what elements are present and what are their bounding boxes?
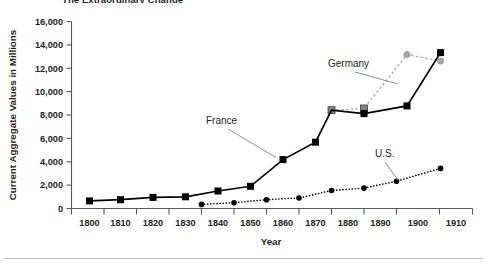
- x-tick-label: 1810: [110, 218, 130, 228]
- y-tick-label: 14,000: [35, 40, 63, 50]
- y-tick-label: 16,000: [35, 17, 63, 27]
- annotation-france: France: [206, 115, 276, 158]
- france-leader-line: [228, 129, 276, 158]
- us-leader-line: [385, 162, 398, 180]
- x-tick-label: 1860: [273, 218, 293, 228]
- x-tick-label: 1850: [240, 218, 260, 228]
- y-axis-title: Current Aggregate Values in Millions: [7, 29, 18, 200]
- y-tick-label: 10,000: [35, 87, 63, 97]
- x-tick-label: 1840: [208, 218, 228, 228]
- x-tick-label: 1800: [79, 218, 99, 228]
- y-tick-label: 8,000: [40, 110, 63, 120]
- y-tick-label: 12,000: [35, 64, 63, 74]
- germany-label: Germany: [328, 58, 369, 69]
- x-tick-label: 1830: [175, 218, 195, 228]
- series-us: [199, 166, 444, 208]
- us-line: [202, 168, 441, 204]
- chart-title: The Extraordinary Change: [62, 0, 183, 3]
- annotation-us: U.S.: [375, 148, 398, 180]
- france-markers: [86, 49, 444, 204]
- chart-figure: The Extraordinary Change 0 2,000 4,000 6…: [0, 0, 487, 263]
- x-tick-label: 1880: [338, 218, 358, 228]
- x-tick-label: 1910: [446, 218, 466, 228]
- series-france: [86, 49, 444, 204]
- x-tick-label: 1900: [408, 218, 428, 228]
- france-line: [90, 53, 441, 201]
- us-label: U.S.: [375, 148, 394, 159]
- y-tick-label: 6,000: [40, 134, 63, 144]
- france-label: France: [206, 115, 238, 126]
- y-axis-ticks: [67, 22, 72, 209]
- x-axis-tick-labels: 1800 1810 1820 1830 1840 1850 1860 1870 …: [79, 218, 466, 228]
- y-axis-tick-labels: 0 2,000 4,000 6,000 8,000 10,000 12,000 …: [35, 17, 63, 214]
- y-tick-label: 0: [58, 204, 63, 214]
- annotation-germany: Germany: [328, 58, 398, 84]
- x-tick-label: 1890: [370, 218, 390, 228]
- x-axis-title: Year: [261, 236, 282, 247]
- x-axis-ticks: [72, 209, 473, 215]
- chart-canvas: 0 2,000 4,000 6,000 8,000 10,000 12,000 …: [0, 0, 487, 263]
- us-markers: [199, 166, 444, 208]
- y-tick-label: 2,000: [40, 180, 63, 190]
- x-tick-label: 1820: [143, 218, 163, 228]
- x-tick-label: 1870: [305, 218, 325, 228]
- y-tick-label: 4,000: [40, 157, 63, 167]
